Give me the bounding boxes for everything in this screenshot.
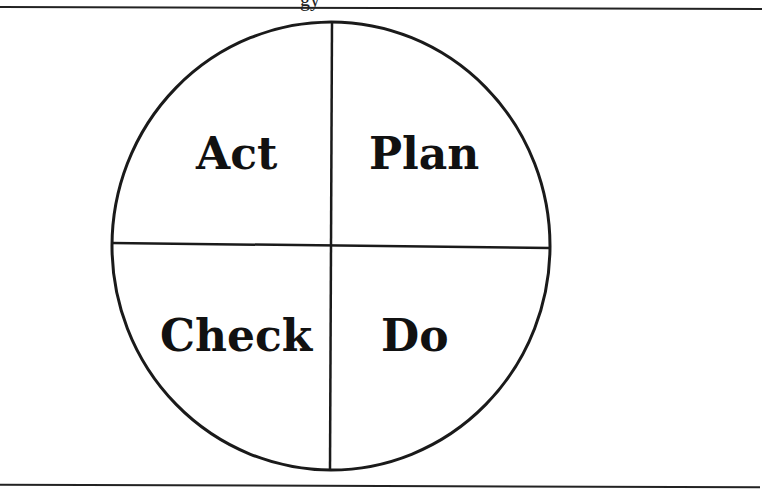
quadrant-do: Do <box>381 314 449 358</box>
pdca-cycle-diagram <box>0 0 768 500</box>
quadrant-check: Check <box>160 314 312 358</box>
quadrant-act: Act <box>196 132 277 176</box>
quadrant-plan: Plan <box>369 132 479 176</box>
